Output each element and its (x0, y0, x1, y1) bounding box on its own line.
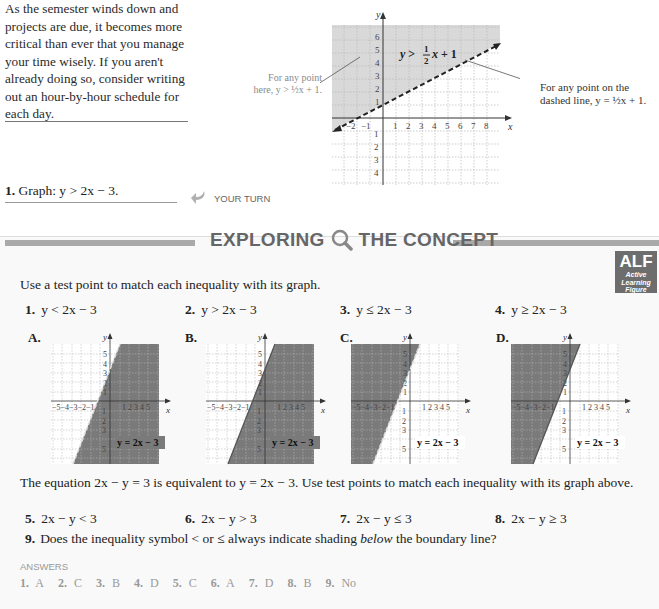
svg-text:3: 3 (258, 369, 262, 378)
svg-text:8: 8 (484, 121, 489, 131)
note-right-line2: dashed line, y = ½x + 1. (540, 94, 659, 107)
svg-text:x: x (465, 405, 470, 415)
svg-text:3: 3 (103, 369, 107, 378)
svg-text:−1: −1 (361, 121, 371, 131)
graph-c[interactable]: y x 54321−5−4−3−2−11 2 3 4 51235 y = 2x … (345, 330, 475, 470)
svg-text:1 2 3 4 5: 1 2 3 4 5 (277, 403, 305, 412)
graph-d[interactable]: y x 54321−5−4−3−2−11 2 3 4 51235 y = 2x … (505, 330, 635, 470)
exploring-title: EXPLORING THE CONCEPT (210, 229, 498, 251)
title-right: THE CONCEPT (359, 229, 498, 251)
svg-text:x + 1: x + 1 (431, 47, 457, 61)
svg-text:1: 1 (424, 44, 429, 54)
svg-text:1 2 3 4 5: 1 2 3 4 5 (422, 403, 450, 412)
svg-text:1 2 3 4 5: 1 2 3 4 5 (582, 403, 610, 412)
svg-text:2: 2 (406, 121, 411, 131)
inequality-item: 6.2x − y > 3 (185, 511, 257, 527)
equivalence-text: The equation 2x − y = 3 is equivalent to… (20, 474, 650, 491)
svg-text:2: 2 (102, 417, 106, 426)
svg-text:5: 5 (375, 45, 380, 55)
q9-emphasis: below (360, 531, 392, 546)
your-turn-label: YOUR TURN (214, 193, 270, 204)
svg-text:3: 3 (102, 426, 106, 435)
inequality-item: 8.2x − y ≥ 3 (495, 511, 567, 527)
svg-text:2: 2 (375, 84, 380, 94)
svg-text:y = 2x − 3: y = 2x − 3 (117, 437, 158, 448)
divider (5, 202, 177, 203)
svg-text:4: 4 (563, 360, 567, 369)
inequality-item: 2.y > 2x − 3 (185, 302, 257, 318)
main-inequality-graph: y x 654321 1234 −2−1 12345678 y > 1 2 x … (320, 0, 520, 200)
svg-text:4: 4 (403, 360, 407, 369)
svg-text:−5−4−3−2−1: −5−4−3−2−1 (352, 403, 395, 412)
inequality-item: 3.y ≤ 2x − 3 (340, 302, 412, 318)
svg-text:y >: y > (398, 47, 415, 61)
svg-text:1: 1 (374, 129, 379, 139)
answers-heading: ANSWERS (20, 561, 68, 572)
svg-text:5: 5 (445, 121, 450, 131)
svg-text:1: 1 (562, 407, 566, 416)
alf-line2: Learning (615, 279, 657, 287)
svg-text:−5−4−3−2−1: −5−4−3−2−1 (207, 403, 250, 412)
example-text: Graph: y > 2x − 3. (19, 183, 119, 198)
title-left: EXPLORING (210, 229, 325, 251)
svg-text:2: 2 (374, 142, 379, 152)
instruction: Use a test point to match each inequalit… (20, 277, 320, 293)
header-rule-left (5, 240, 195, 246)
svg-text:5: 5 (258, 350, 262, 359)
svg-text:1: 1 (393, 121, 398, 131)
alf-badge[interactable]: ALF Active Learning Figure (615, 251, 657, 293)
example-number: 1. (5, 183, 15, 198)
y-axis-label: y (375, 9, 381, 20)
q9-number: 9. (25, 531, 35, 546)
question-9: 9.Does the inequality symbol < or ≤ alwa… (25, 531, 496, 547)
graph-b[interactable]: y x 54321−5−4−3−2−11 2 3 4 51235 y = 2x … (200, 330, 330, 470)
divider (5, 121, 188, 122)
note-right: For any point on the dashed line, y = ½x… (540, 81, 659, 107)
svg-text:2: 2 (257, 417, 261, 426)
note-left: For any point here, y > ½x + 1. (232, 72, 322, 96)
svg-text:1: 1 (103, 388, 107, 397)
svg-text:y = 2x − 3: y = 2x − 3 (417, 437, 458, 448)
inequality-item: 5.2x − y < 3 (25, 511, 97, 527)
svg-text:y: y (402, 332, 407, 342)
svg-text:6: 6 (458, 121, 463, 131)
x-axis-label: x (507, 121, 513, 132)
graph-label-a: A. (28, 330, 41, 346)
answers-list: 1. A 2. C 3. B 4. D 5. C 6. A 7. D 8. B … (20, 576, 356, 591)
study-tip: As the semester winds down and projects … (5, 0, 195, 123)
graph-a[interactable]: y x 54321−5−4−3−2−11 2 3 4 51235 y = 2x … (45, 330, 175, 470)
svg-text:3: 3 (403, 369, 407, 378)
svg-text:3: 3 (257, 426, 261, 435)
note-left-line1: For any point (232, 72, 322, 84)
svg-text:y: y (562, 332, 567, 342)
svg-text:5: 5 (562, 445, 566, 454)
svg-text:4: 4 (375, 58, 380, 68)
svg-text:1: 1 (375, 97, 380, 107)
svg-text:5: 5 (402, 445, 406, 454)
svg-text:5: 5 (257, 445, 261, 454)
svg-text:3: 3 (562, 426, 566, 435)
svg-text:y: y (257, 332, 262, 342)
svg-text:1 2 3 4 5: 1 2 3 4 5 (122, 403, 150, 412)
svg-text:y = 2x − 3: y = 2x − 3 (577, 437, 618, 448)
svg-text:7: 7 (471, 121, 476, 131)
svg-text:2: 2 (424, 56, 429, 66)
svg-text:2: 2 (562, 417, 566, 426)
svg-text:3: 3 (419, 121, 424, 131)
note-right-line1: For any point on the (540, 81, 659, 94)
svg-text:y: y (102, 332, 107, 342)
svg-text:3: 3 (374, 155, 379, 165)
graph-label-b: B. (185, 330, 197, 346)
svg-text:1: 1 (102, 407, 106, 416)
svg-text:5: 5 (563, 350, 567, 359)
alf-title: ALF (615, 253, 657, 271)
curved-arrow-icon (190, 190, 208, 206)
svg-text:4: 4 (258, 360, 262, 369)
inequality-item: 4.y ≥ 2x − 3 (495, 302, 567, 318)
svg-text:−5−4−3−2−1: −5−4−3−2−1 (512, 403, 555, 412)
q9-text-post: the boundary line? (393, 531, 497, 546)
alf-line3: Figure (615, 286, 657, 294)
svg-text:1: 1 (258, 388, 262, 397)
svg-text:4: 4 (374, 168, 379, 178)
svg-text:5: 5 (102, 445, 106, 454)
